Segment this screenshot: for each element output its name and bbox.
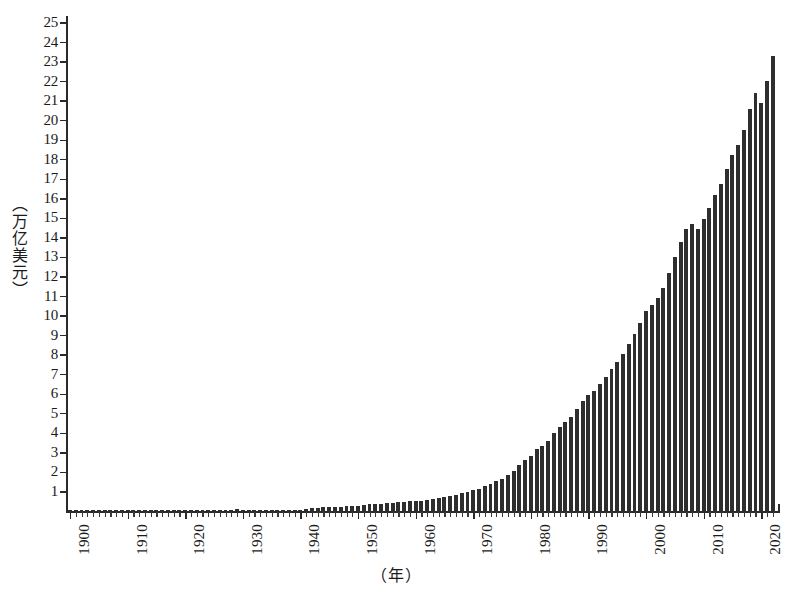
y-tick-label: 12 bbox=[14, 269, 58, 284]
x-tick-mark-major bbox=[128, 512, 129, 519]
x-tick-mark-minor bbox=[375, 512, 376, 517]
x-tick-mark-minor bbox=[600, 512, 601, 517]
bar bbox=[702, 219, 706, 512]
x-tick-mark-major bbox=[70, 512, 71, 519]
x-tick-mark-minor bbox=[652, 512, 653, 517]
y-tick-mark bbox=[60, 433, 67, 434]
bar bbox=[506, 475, 510, 512]
x-tick-mark-minor bbox=[537, 512, 538, 517]
bar bbox=[540, 446, 544, 511]
x-tick-mark-minor bbox=[502, 512, 503, 517]
x-tick-mark-minor bbox=[433, 512, 434, 517]
bar bbox=[754, 93, 758, 512]
x-tick-mark-minor bbox=[295, 512, 296, 517]
bar bbox=[581, 401, 585, 511]
y-tick-label-text: 1 bbox=[28, 484, 58, 499]
y-tick-label-text: 16 bbox=[28, 191, 58, 206]
y-tick-label-text: 19 bbox=[28, 132, 58, 147]
y-tick-mark bbox=[60, 140, 67, 141]
x-tick-mark-minor bbox=[179, 512, 180, 517]
x-tick-mark-minor bbox=[727, 512, 728, 517]
y-tick-label: 20 bbox=[14, 113, 58, 128]
bar bbox=[419, 501, 423, 512]
bar bbox=[345, 506, 349, 511]
y-tick-label-text: 14 bbox=[28, 230, 58, 245]
y-tick-label-text: 23 bbox=[28, 54, 58, 69]
x-tick-mark-minor bbox=[208, 512, 209, 517]
bar bbox=[517, 465, 521, 511]
y-tick-label: 2 bbox=[14, 464, 58, 479]
y-tick-label: 15 bbox=[14, 210, 58, 225]
y-tick-label-text: 13 bbox=[28, 249, 58, 264]
y-tick-label-text: 18 bbox=[28, 152, 58, 167]
bar bbox=[494, 481, 498, 511]
y-tick-label-text: 10 bbox=[28, 308, 58, 323]
x-tick-mark-minor bbox=[444, 512, 445, 517]
y-tick-label-text: 6 bbox=[28, 386, 58, 401]
bar bbox=[310, 508, 314, 511]
y-tick-label-text: 7 bbox=[28, 367, 58, 382]
x-tick-mark-minor bbox=[658, 512, 659, 517]
bar bbox=[656, 298, 660, 512]
y-tick-mark bbox=[60, 354, 67, 355]
x-tick-mark-minor bbox=[122, 512, 123, 517]
x-tick-mark-minor bbox=[110, 512, 111, 517]
bar bbox=[373, 504, 377, 512]
bar bbox=[477, 489, 481, 512]
y-tick-label: 1 bbox=[14, 484, 58, 499]
bar bbox=[362, 505, 366, 512]
x-tick-mark-minor bbox=[289, 512, 290, 517]
x-tick-mark-major bbox=[300, 512, 301, 519]
x-tick-mark-minor bbox=[105, 512, 106, 517]
x-tick-mark-minor bbox=[554, 512, 555, 517]
x-tick-mark-major bbox=[761, 512, 762, 519]
bar bbox=[333, 507, 337, 511]
x-tick-mark-minor bbox=[312, 512, 313, 517]
bar bbox=[610, 369, 614, 511]
bar bbox=[379, 504, 383, 512]
x-tick-mark-minor bbox=[732, 512, 733, 517]
x-tick-mark-minor bbox=[404, 512, 405, 517]
bar bbox=[535, 449, 539, 512]
bar bbox=[529, 456, 533, 512]
y-tick-label-text: 17 bbox=[28, 171, 58, 186]
bar bbox=[546, 441, 550, 512]
bar bbox=[460, 493, 464, 511]
y-tick-label-text: 11 bbox=[28, 289, 58, 304]
y-tick-label: 10 bbox=[14, 308, 58, 323]
x-tick-mark-minor bbox=[755, 512, 756, 517]
x-axis-title: （年） bbox=[0, 562, 792, 586]
x-tick-mark-minor bbox=[191, 512, 192, 517]
y-tick-label: 22 bbox=[14, 74, 58, 89]
bar bbox=[448, 496, 452, 512]
y-tick-label: 4 bbox=[14, 425, 58, 440]
x-tick-mark-minor bbox=[364, 512, 365, 517]
x-tick-mark-major bbox=[531, 512, 532, 519]
x-tick-mark-minor bbox=[629, 512, 630, 517]
x-tick-mark-minor bbox=[381, 512, 382, 517]
x-tick-mark-minor bbox=[202, 512, 203, 517]
x-tick-mark-minor bbox=[686, 512, 687, 517]
x-tick-mark-minor bbox=[249, 512, 250, 517]
y-tick-label: 13 bbox=[14, 249, 58, 264]
bar bbox=[771, 56, 775, 512]
x-tick-mark-minor bbox=[335, 512, 336, 517]
y-tick-mark bbox=[60, 179, 67, 180]
y-tick-label: 14 bbox=[14, 230, 58, 245]
x-tick-mark-minor bbox=[485, 512, 486, 517]
bar bbox=[431, 499, 435, 511]
y-tick-mark bbox=[60, 81, 67, 82]
y-tick-label: 5 bbox=[14, 406, 58, 421]
bar bbox=[742, 130, 746, 512]
x-tick-mark-minor bbox=[82, 512, 83, 517]
y-tick-mark bbox=[60, 61, 67, 62]
y-tick-mark bbox=[60, 22, 67, 23]
x-tick-mark-minor bbox=[323, 512, 324, 517]
x-tick-mark-minor bbox=[421, 512, 422, 517]
y-tick-mark bbox=[60, 472, 67, 473]
x-tick-mark-minor bbox=[133, 512, 134, 517]
bar bbox=[667, 273, 671, 512]
y-tick-mark bbox=[60, 374, 67, 375]
x-tick-mark-minor bbox=[341, 512, 342, 517]
y-tick-label-text: 20 bbox=[28, 113, 58, 128]
